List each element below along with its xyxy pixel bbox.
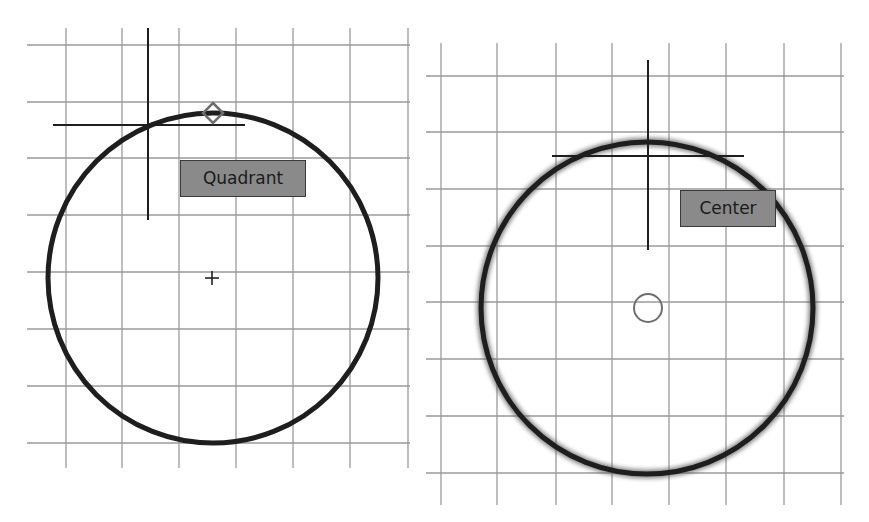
drawing-canvas[interactable] xyxy=(0,0,869,522)
snap-tooltip-center: Center xyxy=(680,190,776,227)
snap-tooltip-quadrant: Quadrant xyxy=(180,160,306,197)
circle-center-plus-icon xyxy=(205,271,219,285)
grid xyxy=(27,28,410,468)
left-panel-quadrant-snap xyxy=(27,28,410,468)
center-snap-marker-icon xyxy=(634,294,662,322)
right-panel-center-snap xyxy=(426,43,844,505)
